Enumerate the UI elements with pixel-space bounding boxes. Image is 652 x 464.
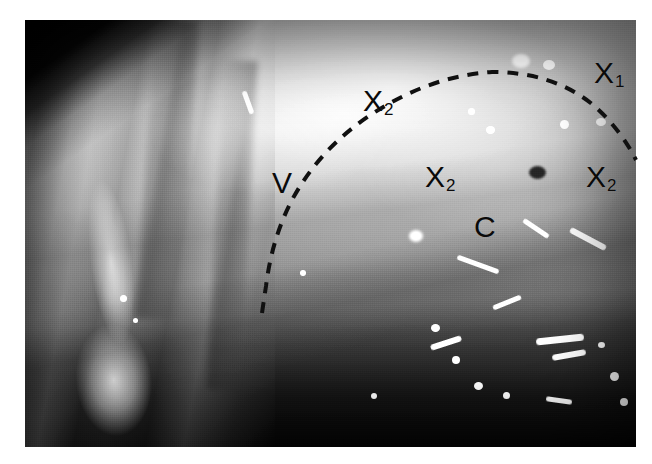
label-x2-right: X2 <box>586 162 616 194</box>
annotation-subscript: 2 <box>446 176 455 195</box>
annotation-letter: X <box>586 160 606 193</box>
annotation-letter: X <box>425 160 445 193</box>
label-x1: X1 <box>594 58 624 90</box>
annotation-subscript: 2 <box>607 176 616 195</box>
endoscopic-photograph <box>25 20 636 447</box>
annotation-letter: C <box>474 210 496 243</box>
label-c: C <box>474 212 496 242</box>
figure-container: VX2X1X2X2C <box>0 0 652 464</box>
annotation-letter: X <box>594 56 614 89</box>
annotation-letter: X <box>363 84 383 117</box>
label-x2-mid: X2 <box>425 162 455 194</box>
label-x2-top: X2 <box>363 86 393 118</box>
photo-vignette <box>25 20 636 447</box>
annotation-subscript: 1 <box>615 72 624 91</box>
annotation-letter: V <box>272 166 292 199</box>
label-v: V <box>272 168 292 198</box>
annotation-subscript: 2 <box>384 100 393 119</box>
